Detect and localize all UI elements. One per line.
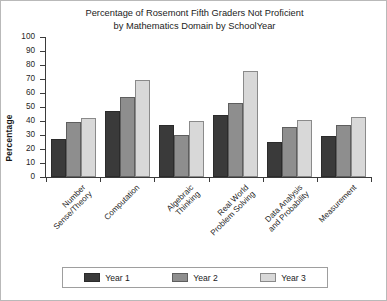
y-tick-label: 60 bbox=[5, 89, 35, 97]
bar-1-2 bbox=[174, 135, 189, 177]
bar-1-3 bbox=[228, 103, 243, 177]
chart-figure: Percentage of Rosemont Fifth Graders Not… bbox=[0, 0, 387, 301]
bar-2-0 bbox=[81, 118, 96, 177]
legend-label: Year 3 bbox=[281, 273, 306, 283]
bar-0-1 bbox=[105, 111, 120, 177]
category-label-0: NumberSense/Theory bbox=[13, 183, 94, 264]
plot-area bbox=[46, 37, 371, 177]
chart-title-line-1: Percentage of Rosemont Fifth Graders Not… bbox=[1, 7, 387, 20]
x-tick-mark bbox=[154, 177, 155, 182]
x-tick-mark bbox=[46, 177, 47, 182]
y-tick-label: 0 bbox=[5, 173, 35, 181]
bar-0-4 bbox=[267, 142, 282, 177]
bar-1-0 bbox=[66, 122, 81, 177]
y-tick-label: 80 bbox=[5, 61, 35, 69]
y-tick-label: 100 bbox=[5, 33, 35, 41]
legend-item-2[interactable]: Year 3 bbox=[260, 273, 306, 283]
bar-2-3 bbox=[243, 71, 258, 177]
y-tick-label: 30 bbox=[5, 131, 35, 139]
y-tick-label: 90 bbox=[5, 47, 35, 55]
x-tick-mark bbox=[100, 177, 101, 182]
y-tick-label: 10 bbox=[5, 159, 35, 167]
y-tick-label: 40 bbox=[5, 117, 35, 125]
y-tick-label: 50 bbox=[5, 103, 35, 111]
legend-swatch-icon bbox=[172, 273, 188, 282]
y-tick-label: 70 bbox=[5, 75, 35, 83]
bar-2-2 bbox=[189, 121, 204, 177]
chart-title-line-2: by Mathematics Domain by SchoolYear bbox=[1, 20, 387, 33]
bar-2-5 bbox=[351, 117, 366, 177]
bar-0-0 bbox=[51, 139, 66, 177]
category-label-line: Sense/Theory bbox=[20, 190, 95, 265]
y-tick-label: 20 bbox=[5, 145, 35, 153]
bar-1-4 bbox=[282, 127, 297, 177]
x-tick-mark bbox=[263, 177, 264, 182]
legend-label: Year 1 bbox=[105, 273, 130, 283]
legend-label: Year 2 bbox=[193, 273, 218, 283]
bar-0-3 bbox=[213, 115, 228, 177]
bar-2-1 bbox=[135, 80, 150, 177]
legend-swatch-icon bbox=[84, 273, 100, 282]
bar-1-1 bbox=[120, 97, 135, 177]
legend-item-0[interactable]: Year 1 bbox=[84, 273, 130, 283]
chart-legend: Year 1Year 2Year 3 bbox=[62, 267, 328, 288]
legend-swatch-icon bbox=[260, 273, 276, 282]
bar-0-2 bbox=[159, 125, 174, 177]
x-tick-mark bbox=[317, 177, 318, 182]
x-tick-mark bbox=[371, 177, 372, 182]
bar-0-5 bbox=[321, 136, 336, 177]
chart-title: Percentage of Rosemont Fifth Graders Not… bbox=[1, 7, 387, 32]
bar-2-4 bbox=[297, 120, 312, 177]
legend-item-1[interactable]: Year 2 bbox=[172, 273, 218, 283]
bar-1-5 bbox=[336, 125, 351, 177]
x-tick-mark bbox=[209, 177, 210, 182]
